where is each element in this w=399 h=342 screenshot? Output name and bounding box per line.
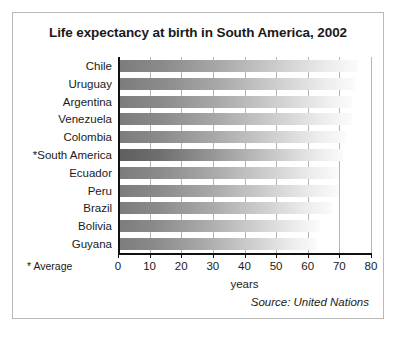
category-label: Colombia bbox=[13, 128, 118, 146]
x-axis-tick bbox=[181, 253, 182, 258]
category-label: Peru bbox=[13, 182, 118, 200]
bar-row bbox=[118, 182, 371, 200]
bar bbox=[118, 220, 320, 232]
x-axis-tick bbox=[339, 253, 340, 258]
x-axis-tick bbox=[308, 253, 309, 258]
plot-area bbox=[118, 57, 371, 253]
bar bbox=[118, 238, 317, 250]
category-label: Bolivia bbox=[13, 217, 118, 235]
bar-row bbox=[118, 128, 371, 146]
bar bbox=[118, 96, 352, 108]
bar bbox=[118, 131, 346, 143]
x-axis-tick-label: 10 bbox=[143, 260, 156, 272]
x-axis-tick bbox=[276, 253, 277, 258]
bar bbox=[118, 78, 355, 90]
x-axis-tick-label: 20 bbox=[175, 260, 188, 272]
category-label: Chile bbox=[13, 57, 118, 75]
category-label: Ecuador bbox=[13, 164, 118, 182]
bar bbox=[118, 149, 343, 161]
bar-row bbox=[118, 93, 371, 111]
footnote-average: * Average bbox=[27, 260, 72, 272]
x-axis-tick-label: 40 bbox=[238, 260, 251, 272]
category-label: Guyana bbox=[13, 235, 118, 253]
x-axis-tick-label: 0 bbox=[115, 260, 121, 272]
chart-plot-wrapper: ChileUruguayArgentinaVenezuelaColombia*S… bbox=[13, 13, 385, 320]
bar-row bbox=[118, 146, 371, 164]
category-label: Uruguay bbox=[13, 75, 118, 93]
gridline bbox=[371, 57, 372, 253]
bar-row bbox=[118, 164, 371, 182]
bar-row bbox=[118, 200, 371, 218]
category-label: Venezuela bbox=[13, 110, 118, 128]
x-axis-tick bbox=[371, 253, 372, 258]
x-axis-tick-label: 80 bbox=[365, 260, 378, 272]
category-label: *South America bbox=[13, 146, 118, 164]
x-axis-tick-label: 60 bbox=[301, 260, 314, 272]
bar bbox=[118, 60, 358, 72]
source-attribution: Source: United Nations bbox=[251, 296, 369, 308]
bar-row bbox=[118, 57, 371, 75]
category-label: Brazil bbox=[13, 200, 118, 218]
x-axis-tick bbox=[118, 253, 119, 258]
bar-row bbox=[118, 217, 371, 235]
x-axis-tick-label: 30 bbox=[206, 260, 219, 272]
bar-series bbox=[118, 57, 371, 253]
y-axis-category-labels: ChileUruguayArgentinaVenezuelaColombia*S… bbox=[13, 57, 118, 253]
bar-row bbox=[118, 110, 371, 128]
bar bbox=[118, 202, 333, 214]
bar-row bbox=[118, 235, 371, 253]
x-axis-title: years bbox=[118, 278, 371, 290]
x-axis-tick bbox=[245, 253, 246, 258]
category-label: Argentina bbox=[13, 93, 118, 111]
bar bbox=[118, 185, 339, 197]
x-axis-tick bbox=[213, 253, 214, 258]
chart-frame: Life expectancy at birth in South Americ… bbox=[12, 12, 384, 319]
bar bbox=[118, 167, 339, 179]
x-axis-tick-label: 70 bbox=[333, 260, 346, 272]
y-axis-line bbox=[118, 57, 120, 253]
bar-row bbox=[118, 75, 371, 93]
x-axis-tick bbox=[150, 253, 151, 258]
x-axis-tick-label: 50 bbox=[270, 260, 283, 272]
bar bbox=[118, 113, 352, 125]
